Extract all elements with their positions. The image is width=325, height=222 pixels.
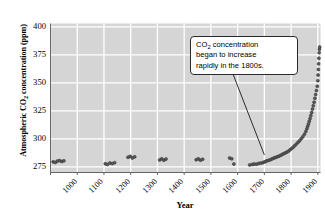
annotation-line-1-sub: 2 xyxy=(207,44,210,50)
x-axis-tick-label: 1800 xyxy=(274,177,292,195)
x-axis-tick-label: 1700 xyxy=(248,177,266,195)
annotation-callout: CO2 concentration began to increase rapi… xyxy=(190,36,298,75)
annotation-line-1-pre: CO xyxy=(196,40,207,49)
annotation-line-1-post: concentration xyxy=(211,40,259,49)
x-axis-tick-label: 1100 xyxy=(87,177,105,195)
annotation-line-3: rapidly in the 1800s. xyxy=(196,61,264,70)
x-axis-tick-label: 1000 xyxy=(60,177,78,195)
x-axis-tick-labels: 1000110012001300140015001600170018001900… xyxy=(0,0,325,222)
co2-concentration-chart: Atmospheric CO2 concentration (ppm) 2753… xyxy=(0,0,325,222)
x-axis-tick-label: 1500 xyxy=(194,177,212,195)
x-axis-tick-label: 1300 xyxy=(141,177,159,195)
x-axis-tick-label: 1200 xyxy=(114,177,132,195)
annotation-line-2: began to increase xyxy=(196,50,256,59)
x-axis-tick-label: 1900 xyxy=(301,177,319,195)
x-axis-tick-label: 1600 xyxy=(221,177,239,195)
x-axis-title: Year xyxy=(50,200,320,210)
x-axis-tick-label: 1400 xyxy=(167,177,185,195)
